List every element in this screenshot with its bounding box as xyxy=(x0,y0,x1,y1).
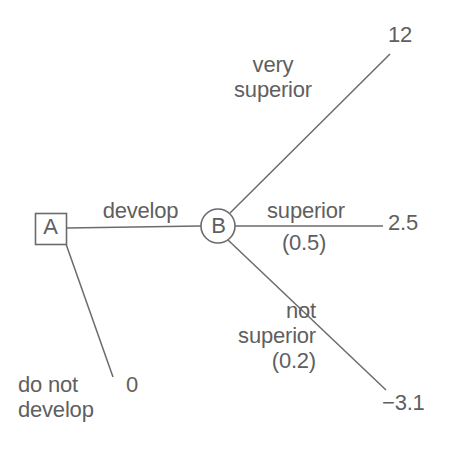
branch-label-very-superior: very superior xyxy=(212,52,334,102)
outcome-value-superior: 2.5 xyxy=(388,210,443,235)
branch-develop-line[interactable] xyxy=(67,226,201,228)
outcome-value-not-superior: −3.1 xyxy=(382,390,444,415)
branch-label-develop: develop xyxy=(88,198,193,223)
branch-label-do-not-develop: do not develop xyxy=(18,372,123,422)
branch-label-superior: superior xyxy=(256,198,356,223)
decision-node-a-label: A xyxy=(35,216,66,238)
chance-node-b-label: B xyxy=(203,215,234,237)
branch-probability-superior: (0.5) xyxy=(272,230,336,255)
outcome-value-very-superior: 12 xyxy=(388,22,438,47)
branch-probability-not-superior: (0.2) xyxy=(186,348,316,373)
outcome-value-do-not-develop: 0 xyxy=(126,372,156,397)
branch-do-not-develop-line[interactable] xyxy=(66,244,113,377)
branch-label-not-superior: not superior xyxy=(186,298,316,348)
